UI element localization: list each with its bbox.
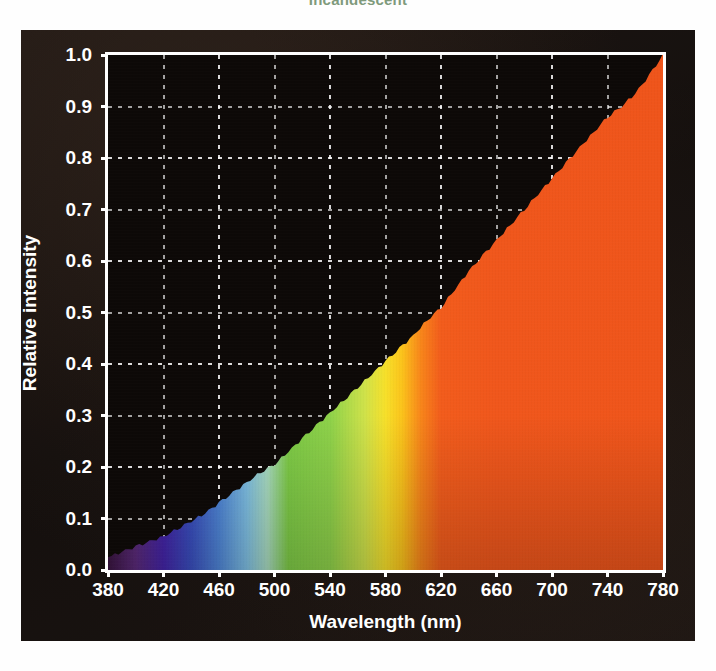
y-axis-tick <box>101 363 108 366</box>
x-axis-tick <box>495 570 498 577</box>
y-axis-tick <box>101 260 108 263</box>
plot-wrapper: 380420460500540580620660700740780 0.00.1… <box>108 55 663 570</box>
y-axis-tick <box>101 157 108 160</box>
y-axis-tick <box>101 54 108 57</box>
x-axis-tick <box>440 570 443 577</box>
x-tick-label: 780 <box>647 579 679 601</box>
x-axis-tick <box>273 570 276 577</box>
x-axis-title: Wavelength (nm) <box>108 611 663 633</box>
x-tick-label: 380 <box>92 579 124 601</box>
x-tick-label: 580 <box>370 579 402 601</box>
x-tick-label: 700 <box>536 579 568 601</box>
y-tick-label: 0.0 <box>66 559 92 581</box>
y-tick-label: 0.1 <box>66 508 92 530</box>
y-axis-tick <box>101 569 108 572</box>
y-tick-label: 0.4 <box>66 353 92 375</box>
y-tick-label: 0.2 <box>66 456 92 478</box>
x-axis-tick <box>162 570 165 577</box>
x-axis-tick <box>329 570 332 577</box>
y-axis-tick <box>101 466 108 469</box>
x-tick-label: 420 <box>148 579 180 601</box>
x-tick-label: 500 <box>259 579 291 601</box>
y-tick-label: 0.8 <box>66 147 92 169</box>
y-axis-tick <box>101 208 108 211</box>
chart-title: Incandescent <box>0 0 716 8</box>
y-axis-tick <box>101 311 108 314</box>
x-axis-tick <box>606 570 609 577</box>
y-tick-label: 0.9 <box>66 96 92 118</box>
spectrum-area-fill <box>108 55 663 570</box>
y-tick-label: 0.5 <box>66 302 92 324</box>
y-tick-label: 0.3 <box>66 405 92 427</box>
y-axis-tick <box>101 414 108 417</box>
x-axis-tick <box>218 570 221 577</box>
plot-area <box>108 55 663 570</box>
x-axis-tick <box>384 570 387 577</box>
x-tick-label: 660 <box>481 579 513 601</box>
y-tick-label: 1.0 <box>66 44 92 66</box>
y-tick-label: 0.6 <box>66 250 92 272</box>
spectrum-shading <box>108 55 663 570</box>
y-tick-label: 0.7 <box>66 199 92 221</box>
y-axis-tick <box>101 517 108 520</box>
y-axis-title: Relative intensity <box>21 235 41 391</box>
x-tick-label: 460 <box>203 579 235 601</box>
x-tick-label: 540 <box>314 579 346 601</box>
figure-page: Incandescent 380420460500540580620660700… <box>0 0 716 671</box>
chart-panel: 380420460500540580620660700740780 0.00.1… <box>21 30 695 641</box>
y-axis-tick <box>101 105 108 108</box>
x-tick-label: 740 <box>592 579 624 601</box>
x-axis-tick <box>662 570 665 577</box>
x-tick-label: 620 <box>425 579 457 601</box>
x-axis-tick <box>551 570 554 577</box>
spectrum-curve-svg <box>108 55 663 570</box>
